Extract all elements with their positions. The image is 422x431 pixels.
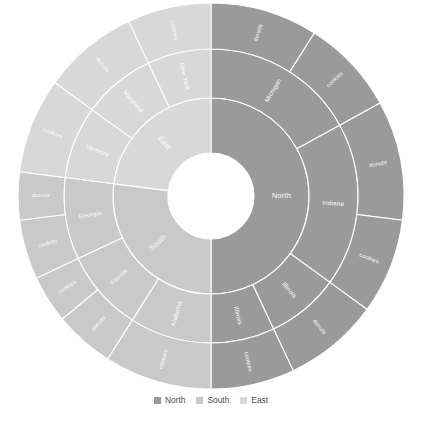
legend-item-south[interactable]: South — [196, 395, 229, 405]
legend-label: East — [251, 395, 268, 405]
legend-swatch-icon — [196, 397, 203, 404]
sunburst-chart: NorthMichigandonutscookiesIndianadonutsc… — [0, 0, 422, 431]
legend-swatch-icon — [240, 397, 247, 404]
legend-swatch-icon — [154, 397, 161, 404]
legend-label: North — [165, 395, 185, 405]
legend-item-east[interactable]: East — [240, 395, 268, 405]
sunburst-svg: NorthMichigandonutscookiesIndianadonutsc… — [0, 0, 422, 431]
chart-legend: NorthSouthEast — [0, 392, 422, 408]
figure-caption — [8, 420, 408, 431]
segment-label: donuts — [32, 192, 50, 198]
legend-item-north[interactable]: North — [154, 395, 185, 405]
segment-label: North — [272, 191, 291, 200]
segment-label: Indiana — [322, 199, 344, 207]
sunburst-arcs-layer — [18, 3, 404, 389]
legend-label: South — [207, 395, 229, 405]
